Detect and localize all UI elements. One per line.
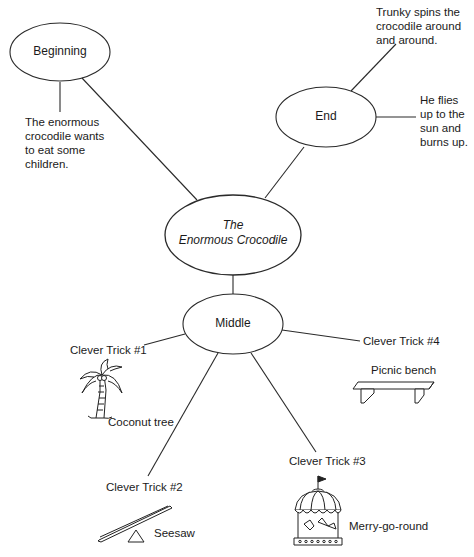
- center-title: The Enormous Crocodile: [165, 218, 301, 248]
- end-note-sun: He flies up to the sun and burns up.: [420, 93, 468, 149]
- trick4-label: Clever Trick #4: [363, 334, 440, 348]
- middle-label: Middle: [193, 316, 273, 331]
- diagram-canvas: [0, 0, 474, 557]
- end-note-trunky: Trunky spins the crocodile around and ar…: [376, 5, 461, 47]
- trick2-item: Seesaw: [154, 526, 195, 540]
- beginning-note: The enormous crocodile wants to eat some…: [25, 115, 104, 171]
- trick2-label: Clever Trick #2: [106, 480, 183, 494]
- trick4-item: Picnic bench: [371, 363, 436, 377]
- trick3-item: Merry-go-round: [349, 519, 428, 533]
- carousel-icon: [294, 476, 342, 545]
- trick1-label: Clever Trick #1: [70, 343, 147, 357]
- connector-end-note1: [351, 44, 396, 91]
- end-label: End: [286, 109, 366, 124]
- center-title-line1: The: [165, 218, 301, 233]
- trick1-item: Coconut tree: [108, 415, 174, 429]
- beginning-label: Beginning: [20, 44, 100, 59]
- connector-trick3: [251, 353, 316, 452]
- connector-trick1: [144, 334, 185, 345]
- trick3-label: Clever Trick #3: [289, 454, 366, 468]
- palm-tree-icon: [80, 359, 122, 418]
- connector-trick4: [282, 330, 360, 341]
- bench-icon: [353, 382, 434, 403]
- center-title-line2: Enormous Crocodile: [165, 233, 301, 248]
- connector-end-center: [265, 147, 304, 198]
